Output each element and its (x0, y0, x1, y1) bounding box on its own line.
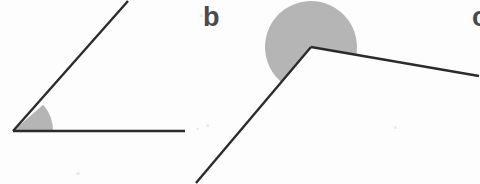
figure-a-diagonal-ray (13, 1, 128, 131)
figure-c-label: c (472, 4, 480, 31)
figure-canvas: b c (0, 0, 480, 184)
angle-diagram-svg (0, 0, 480, 184)
figure-b-angle-shade (265, 1, 357, 82)
figure-b-right-ray (311, 47, 479, 76)
figure-b-lower-left-ray (196, 47, 311, 183)
figure-b-label: b (203, 4, 220, 31)
figure-a-group (13, 1, 185, 131)
scan-speck (206, 124, 209, 127)
scan-speck (394, 126, 397, 129)
scan-speck (196, 128, 199, 130)
scan-speck (200, 14, 203, 17)
figure-b-group (196, 1, 479, 183)
scan-speck (76, 172, 80, 175)
